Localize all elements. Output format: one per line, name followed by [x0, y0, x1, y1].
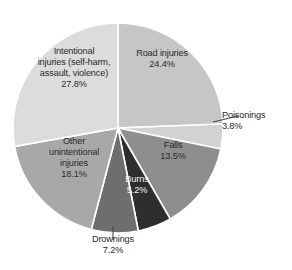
- slice-label-name: Road injuries: [118, 48, 206, 59]
- pie-chart-canvas: [0, 0, 292, 270]
- pie-chart: Road injuries 24.4% Poisonings 3.8% Fall…: [0, 0, 292, 270]
- slice-label-name: Poisonings: [222, 110, 290, 121]
- slice-label-name: Other unintentional injuries: [28, 136, 120, 169]
- slice-label-value: 3.8%: [222, 121, 290, 132]
- slice-label-poisonings: Poisonings 3.8%: [222, 110, 290, 132]
- slice-label-value: 5.2%: [112, 185, 162, 196]
- slice-label-other-unintentional-injuries: Other unintentional injuries 18.1%: [28, 136, 120, 179]
- slice-label-value: 13.5%: [144, 151, 202, 162]
- slice-label-falls: Falls 13.5%: [144, 140, 202, 162]
- slice-label-value: 18.1%: [28, 169, 120, 180]
- slice-label-name: Falls: [144, 140, 202, 151]
- pie-slice-road-injuries: [118, 23, 223, 128]
- slice-label-drownings: Drownings 7.2%: [70, 234, 156, 256]
- slice-label-intentional-injuries: Intentional injuries (self-harm, assault…: [22, 46, 126, 89]
- slice-label-name: Intentional injuries (self-harm, assault…: [22, 46, 126, 79]
- slice-label-value: 7.2%: [70, 245, 156, 256]
- slice-label-value: 27.8%: [22, 79, 126, 90]
- slice-label-road-injuries: Road injuries 24.4%: [118, 48, 206, 70]
- slice-label-value: 24.4%: [118, 59, 206, 70]
- slice-label-name: Drownings: [70, 234, 156, 245]
